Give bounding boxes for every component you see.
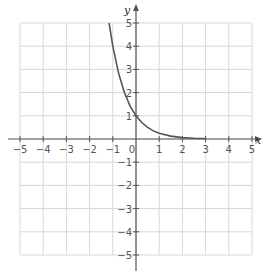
x-tick-label: 4 [226,144,232,155]
x-tick-label: 1 [156,144,162,155]
axes [8,4,262,271]
x-tick-label: −3 [59,144,74,155]
y-axis-label: y [123,4,131,17]
y-tick-label: −3 [117,204,132,215]
x-tick-labels: −5−4−3−2−1012345 [13,144,256,155]
y-tick-label: 3 [126,64,132,75]
y-tick-label: 5 [126,18,132,29]
x-tick-label: 0 [129,144,135,155]
y-axis-arrow-icon [133,4,139,11]
y-tick-label: −4 [117,227,132,238]
x-axis-label: x [255,134,262,147]
x-tick-label: 3 [202,144,208,155]
y-tick-label: 1 [126,111,132,122]
x-tick-label: −1 [105,144,120,155]
y-tick-label: −1 [117,157,132,168]
exponential-graph: −5−4−3−2−1012345 −5−4−3−2−112345 x y [0,0,264,271]
x-tick-label: −2 [82,144,97,155]
y-tick-label: 4 [126,41,132,52]
y-tick-label: −2 [117,180,132,191]
x-tick-label: −5 [13,144,28,155]
x-tick-label: 2 [179,144,185,155]
function-curve [109,23,206,139]
x-tick-label: −4 [36,144,51,155]
y-tick-label: −5 [117,250,132,261]
